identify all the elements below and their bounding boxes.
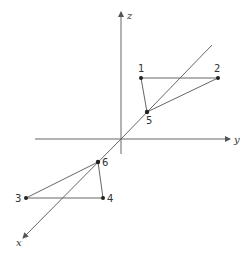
edge-3-6 (26, 162, 98, 198)
edge-1-5 (141, 78, 147, 112)
point-label-2: 2 (214, 63, 220, 74)
point-3 (24, 196, 28, 200)
x-axis-label: x (16, 237, 22, 248)
point-2 (216, 76, 220, 80)
edge-2-5 (147, 78, 218, 112)
point-5 (145, 110, 149, 114)
point-label-1: 1 (138, 63, 144, 74)
point-label-6: 6 (102, 157, 108, 168)
x-axis (23, 139, 121, 238)
point-label-4: 4 (107, 193, 113, 204)
y-axis-label: y (233, 134, 240, 145)
diagram-canvas: z y x 1 2 5 3 4 6 (0, 0, 252, 254)
point-label-3: 3 (15, 193, 21, 204)
point-6 (96, 160, 100, 164)
point-label-5: 5 (146, 115, 152, 126)
z-axis-label: z (126, 10, 133, 21)
diagonal-line (121, 45, 212, 139)
point-4 (101, 196, 105, 200)
point-1 (139, 76, 143, 80)
